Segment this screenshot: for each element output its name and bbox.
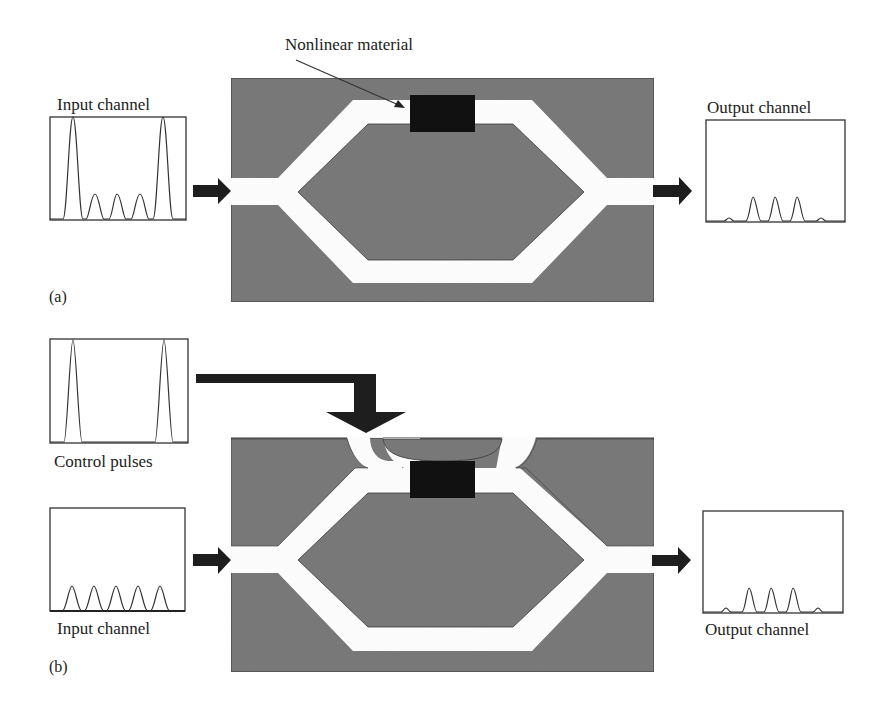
input-channel-plot-b — [50, 508, 185, 611]
output-arrow-a — [653, 177, 692, 205]
control-pulses-plot — [50, 339, 188, 443]
panel-label-b: (b) — [49, 659, 68, 675]
panel-a — [50, 60, 845, 302]
input-channel-label-b: Input channel — [57, 620, 150, 637]
control-arrow — [196, 374, 406, 433]
nonlinear-material-a — [410, 95, 475, 132]
output-channel-plot-a — [706, 120, 845, 222]
output-channel-plot-b — [703, 511, 843, 613]
panel-label-a: (a) — [49, 289, 67, 305]
input-channel-plot-a — [50, 117, 186, 220]
output-channel-label-b: Output channel — [705, 621, 809, 638]
output-channel-label-a: Output channel — [707, 99, 811, 116]
nonlinear-material-label: Nonlinear material — [285, 36, 413, 53]
input-channel-label-a: Input channel — [57, 96, 150, 113]
output-arrow-b — [652, 547, 691, 574]
input-arrow-a — [193, 178, 231, 204]
nonlinear-material-b — [410, 461, 475, 498]
input-arrow-b — [193, 547, 231, 574]
control-pulses-label: Control pulses — [54, 453, 153, 470]
